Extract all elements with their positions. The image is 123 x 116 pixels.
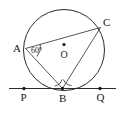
label-point-q: Q	[97, 91, 105, 103]
geometry-canvas: A C O P B Q 60°	[0, 0, 123, 116]
label-point-o: O	[61, 49, 68, 60]
label-point-b: B	[59, 92, 66, 104]
point-dot-b	[61, 87, 64, 90]
label-point-a: A	[13, 42, 21, 54]
label-angle-a: 60°	[31, 46, 42, 55]
label-point-c: C	[103, 16, 110, 28]
angle-arc-pba	[55, 80, 62, 87]
point-dot-p	[22, 87, 25, 90]
geometry-figure: A C O P B Q 60°	[0, 0, 123, 116]
center-dot-o	[62, 43, 65, 46]
label-point-p: P	[21, 91, 27, 103]
point-dot-q	[98, 87, 101, 90]
